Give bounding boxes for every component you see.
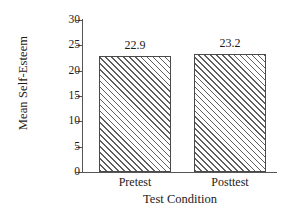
bar-chart: Mean Self-Esteem 051015202530 22.9Pretes… [0, 0, 289, 211]
y-axis-tick-label: 15 [24, 90, 82, 102]
y-axis-tick-label: 0 [24, 166, 82, 178]
bar [99, 56, 171, 172]
x-axis-title: Test Condition [82, 192, 278, 206]
y-axis-tick-label: 30 [24, 14, 82, 26]
bar [194, 54, 266, 172]
y-axis-tick-label: 10 [24, 115, 82, 127]
y-axis-tick-label: 25 [24, 39, 82, 51]
y-axis-tick-label: 20 [24, 65, 82, 77]
y-axis-tick-label: 5 [24, 141, 82, 153]
bar-value-label: 23.2 [174, 37, 286, 49]
y-axis-ticks: 051015202530 [0, 0, 82, 211]
x-axis-category-label: Posttest [174, 176, 286, 189]
